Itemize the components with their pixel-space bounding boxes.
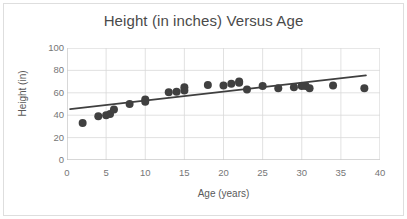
data-point [94,112,102,120]
data-point [180,83,188,91]
data-point [259,82,267,90]
x-axis-ticks: 0510152025303540 [67,167,380,181]
data-point [227,80,235,88]
x-tick-label: 25 [248,167,278,178]
data-point [306,84,314,92]
y-tick-label: 40 [24,110,64,120]
data-point [126,100,134,108]
data-point [141,96,149,104]
x-tick-label: 0 [52,167,82,178]
data-point [243,85,251,93]
y-tick-label: 100 [24,43,64,53]
plot-area [67,48,380,160]
y-tick-label: 60 [24,88,64,98]
data-point [290,83,298,91]
y-tick-label: 80 [24,65,64,75]
x-tick-label: 10 [130,167,160,178]
trendline-segment [70,75,366,109]
y-tick-label: 0 [24,155,64,165]
trendline [70,75,366,109]
x-tick-label: 20 [209,167,239,178]
x-tick-label: 15 [169,167,199,178]
data-point [110,106,118,114]
data-point [173,88,181,96]
data-point [235,78,243,86]
data-point [274,84,282,92]
y-tick-label: 20 [24,133,64,143]
data-point [165,88,173,96]
x-tick-label: 35 [326,167,356,178]
data-point [360,84,368,92]
x-axis-label: Age (years) [67,188,380,199]
data-point [79,119,87,127]
data-point [204,81,212,89]
x-tick-label: 5 [91,167,121,178]
x-tick-label: 30 [287,167,317,178]
data-point [329,82,337,90]
x-tick-label: 40 [365,167,395,178]
y-axis-ticks: 020406080100 [22,0,64,219]
data-point [220,82,228,90]
scatter-plot-svg [67,48,380,160]
chart-figure: Height (in inches) Versus Age Height (in… [0,0,407,219]
